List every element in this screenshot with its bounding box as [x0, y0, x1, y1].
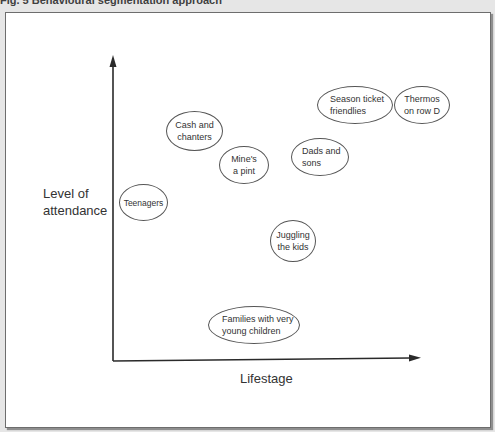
segment-label-line: Mine's: [231, 153, 257, 165]
segment-juggling-the-kids: Jugglingthe kids: [270, 220, 316, 262]
segment-label-line: Teenagers: [124, 197, 164, 209]
segment-cash-and-chanters: Cash andchanters: [166, 111, 223, 151]
segment-label-line: Families with very: [222, 313, 294, 325]
segment-season-ticket-friendlies: Season ticketfriendlies: [317, 86, 393, 124]
segment-thermos-on-row-d: Thermoson row D: [394, 86, 450, 124]
segment-label-line: Season ticket: [330, 93, 384, 105]
x-axis-line: [113, 358, 410, 361]
segment-label-line: on row D: [404, 105, 440, 117]
segment-label-line: Dads and: [302, 145, 341, 157]
segment-label-line: young children: [222, 325, 294, 337]
segment-label-line: sons: [302, 157, 341, 169]
segment-teenagers: Teenagers: [119, 184, 168, 221]
segment-label-line: friendlies: [330, 105, 384, 117]
segment-families-with-very-young-children: Families with veryyoung children: [208, 306, 300, 344]
y-axis-label: Level of attendance: [43, 185, 113, 219]
x-axis-label: Lifestage: [240, 370, 293, 387]
segment-dads-and-sons: Dads andsons: [291, 138, 349, 176]
segment-label-line: Cash and: [175, 119, 214, 131]
segment-mines-a-pint: Mine'sa pint: [219, 146, 269, 184]
segment-label-line: Thermos: [404, 93, 440, 105]
x-axis-arrow-icon: [409, 355, 421, 362]
segment-label-line: chanters: [175, 131, 214, 143]
y-axis-arrow-icon: [110, 55, 117, 67]
segment-label-line: a pint: [231, 165, 257, 177]
segment-label-line: Juggling: [276, 229, 310, 241]
segment-label-line: the kids: [276, 241, 310, 253]
